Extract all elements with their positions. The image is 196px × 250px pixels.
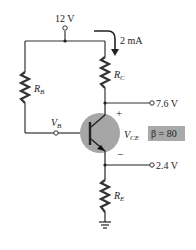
junction-dot [63,39,66,42]
vb-label: VB [51,117,62,130]
re-label: RE [113,190,125,203]
emitter-terminal [150,163,154,167]
beta-label: β = 80 [151,128,177,139]
vce-plus: + [116,107,122,119]
supply-terminal [63,26,67,30]
rb-resistor [21,72,29,103]
emitter-voltage-label: 2.4 V [156,160,179,171]
supply-label: 12 V [55,13,75,24]
circuit-diagram: 12 V 2 mA RB RC RE VB VCE + − 7.6 V 2.4 … [0,0,196,250]
vce-label: VCE [124,129,140,142]
ground-icon [99,222,111,228]
junction-dot [103,163,106,166]
vce-minus: − [117,148,123,160]
current-label: 2 mA [120,35,143,46]
junction-dot [103,101,106,104]
rc-resistor [101,57,109,88]
rc-label: RC [113,69,125,82]
rb-label: RB [33,83,45,96]
collector-terminal [150,101,154,105]
current-arrowhead-icon [111,49,119,56]
collector-voltage-label: 7.6 V [156,98,179,109]
base-terminal [54,131,58,135]
re-resistor [101,180,109,212]
